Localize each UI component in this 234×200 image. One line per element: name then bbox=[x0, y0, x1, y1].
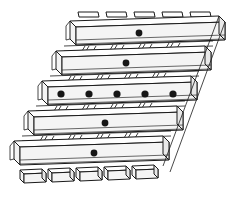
drill-hole bbox=[123, 60, 130, 67]
slat-band-top bbox=[66, 16, 225, 45]
slatted-panel-drawing bbox=[0, 0, 234, 200]
slat-band-bottom bbox=[10, 136, 169, 165]
slat-band-upper bbox=[52, 46, 211, 75]
drill-hole bbox=[136, 30, 143, 37]
drill-hole bbox=[85, 90, 92, 97]
drill-hole bbox=[169, 90, 176, 97]
drill-hole bbox=[113, 90, 120, 97]
top-tab bbox=[162, 12, 183, 17]
top-tab bbox=[134, 12, 155, 17]
bottom-foot bbox=[132, 165, 158, 179]
bottom-foot bbox=[104, 166, 130, 180]
top-tab-group bbox=[78, 12, 211, 17]
drill-hole bbox=[102, 120, 109, 127]
slat-band-lower bbox=[24, 106, 183, 135]
bottom-foot bbox=[48, 168, 74, 182]
top-tab bbox=[78, 12, 99, 17]
top-tab bbox=[106, 12, 127, 17]
bottom-foot bbox=[20, 169, 46, 183]
drill-hole bbox=[91, 150, 98, 157]
bottom-foot-group bbox=[20, 165, 158, 183]
slat-band-middle bbox=[38, 76, 197, 105]
bottom-foot bbox=[76, 167, 102, 181]
figure-root bbox=[0, 0, 234, 200]
drill-hole bbox=[57, 90, 64, 97]
drill-hole bbox=[141, 90, 148, 97]
